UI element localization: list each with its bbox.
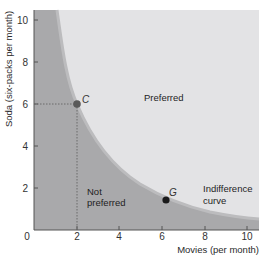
y-tick-label-2: 2	[22, 183, 28, 194]
y-tick-label-4: 4	[22, 141, 28, 152]
x-tick-label-10: 10	[241, 231, 253, 242]
y-tick-label-8: 8	[22, 57, 28, 68]
preferred-label: Preferred	[144, 92, 184, 103]
x-tick-label-2: 2	[74, 231, 80, 242]
x-tick-label-0: 0	[24, 231, 30, 242]
not-preferred-label-line2: preferred	[87, 197, 126, 208]
not-preferred-label-line1: Not	[87, 186, 102, 197]
indifference-curve-label-line2: curve	[203, 195, 226, 206]
indifference-chart: 10 8 6 4 2 0 2 4 6 8 10 Movies (per mont…	[0, 0, 267, 261]
y-tick-label-6: 6	[22, 99, 28, 110]
y-tick-label-10: 10	[17, 15, 29, 26]
x-tick-label-6: 6	[159, 231, 165, 242]
y-axis-title: Soda (six-packs per month)	[3, 11, 14, 127]
x-tick-label-4: 4	[116, 231, 122, 242]
point-c-label: C	[82, 94, 90, 105]
point-g-label: G	[169, 187, 177, 198]
point-c	[73, 100, 81, 108]
x-axis-title: Movies (per month)	[177, 244, 259, 255]
x-tick-label-8: 8	[202, 231, 208, 242]
indifference-curve-label-line1: Indifference	[203, 183, 252, 194]
